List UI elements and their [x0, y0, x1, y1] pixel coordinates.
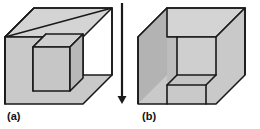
panel-b-notch-back-face — [177, 37, 216, 75]
figure-container: (a) (b) — [0, 0, 260, 129]
panel-a-small-cube-front-face — [33, 47, 70, 91]
arrow-head — [118, 96, 127, 104]
panel-a-drawing — [5, 8, 112, 104]
downward-arrow-icon — [118, 3, 127, 104]
panel-b-label: (b) — [142, 110, 156, 122]
panel-b-drawing — [138, 8, 245, 104]
figure-graphic — [0, 0, 260, 129]
panel-a-label: (a) — [7, 110, 20, 122]
